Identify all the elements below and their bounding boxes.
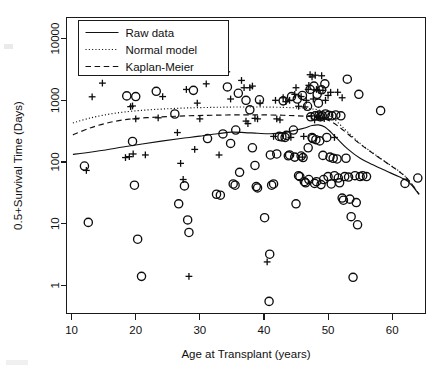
y-axis-tick-label: 1000: [50, 88, 62, 114]
chart-figure: 102030405060110100100010000Age at Transp…: [0, 0, 437, 376]
scan-artifact-left: [4, 44, 13, 49]
legend-label: Raw data: [126, 27, 175, 39]
y-axis-tick-label: 1: [50, 282, 62, 288]
y-axis-tick-label: 100: [50, 152, 62, 171]
y-axis-tick-label: 10: [50, 217, 62, 230]
x-axis-tick-label: 20: [129, 324, 142, 336]
x-axis-title: Age at Transplant (years): [181, 348, 310, 360]
y-axis-title: 0.5+Survival Time (Days): [12, 101, 24, 230]
legend-label: Normal model: [126, 44, 198, 56]
legend-label: Kaplan-Meier: [126, 61, 195, 73]
chart-legend: Raw dataNormal modelKaplan-Meier: [79, 21, 229, 76]
y-axis-tick-label: 10000: [50, 23, 62, 55]
scatter-plot-svg: 102030405060110100100010000Age at Transp…: [0, 0, 437, 376]
scan-artifact-bottom: [6, 360, 28, 365]
x-axis-tick-label: 40: [258, 324, 271, 336]
x-axis-tick-label: 50: [322, 324, 335, 336]
x-axis-tick-label: 10: [65, 324, 78, 336]
x-axis-tick-label: 60: [386, 324, 399, 336]
x-axis-tick-label: 30: [193, 324, 206, 336]
